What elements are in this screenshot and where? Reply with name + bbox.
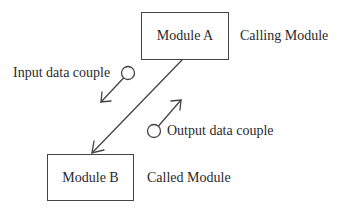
module-b-box: Module B	[47, 154, 134, 201]
input-data-couple-label: Input data couple	[13, 66, 110, 80]
module-a-label: Module A	[157, 28, 213, 44]
called-module-label: Called Module	[147, 171, 231, 185]
output-data-couple-label: Output data couple	[167, 124, 274, 138]
module-a-box: Module A	[141, 12, 229, 60]
module-b-label: Module B	[62, 170, 118, 186]
calling-module-label: Calling Module	[240, 29, 328, 43]
structure-chart-diagram: Module A Calling Module Input data coupl…	[0, 0, 342, 211]
